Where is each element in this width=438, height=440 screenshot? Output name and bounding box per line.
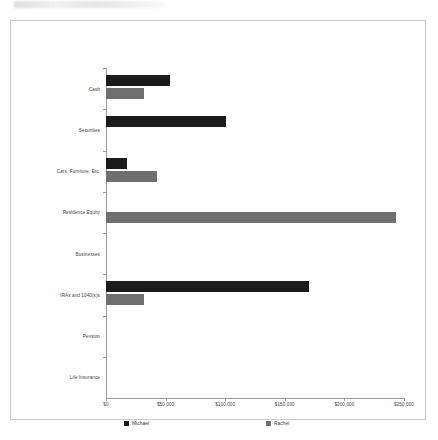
category-row: Residence Equity [106,192,404,233]
category-label: Pension [83,334,100,339]
x-axis-line [106,398,405,399]
y-axis-tick [103,109,106,110]
legend-label: Rachel [274,421,290,426]
category-label: Cash [89,86,100,91]
category-label: IRAs and 1040(k)s [60,292,100,297]
scanned-page: CashSecuritiesCars, Furniture, Etc.Resid… [0,0,438,440]
x-axis-tick-label: $100,000 [215,402,235,407]
category-label: Cars, Furniture, Etc. [57,169,100,174]
x-axis-tick [106,398,107,401]
bar-rachel-cash [106,88,144,99]
legend-entry-michael[interactable]: Michael [124,421,149,426]
bar-rachel-residence-equity [106,212,396,223]
x-axis-tick-label: $250,000 [394,402,414,407]
y-axis-tick [103,316,106,317]
x-axis-tick [225,398,226,401]
category-label: Securities [79,127,100,132]
x-axis-tick [344,398,345,401]
y-axis-tick [103,357,106,358]
category-label: Businesses [76,251,101,256]
x-axis-tick [285,398,286,401]
y-axis-tick [103,68,106,69]
bar-michael-cash [106,75,170,86]
bar-michael-securities [106,116,226,127]
scan-artifact [14,1,164,8]
plot-area: CashSecuritiesCars, Furniture, Etc.Resid… [106,68,404,398]
legend-swatch-icon [124,421,129,426]
bar-rachel-cars-furniture-etc [106,171,157,182]
bar-michael-iras-and-1040-k-s [106,281,309,292]
category-row: Cars, Furniture, Etc. [106,151,404,192]
x-axis-tick-label: $50,000 [157,402,174,407]
category-row: Businesses [106,233,404,274]
category-row: Cash [106,68,404,109]
y-axis-tick [103,233,106,234]
bar-michael-cars-furniture-etc [106,158,127,169]
category-row: Life Insurance [106,357,404,398]
y-axis-tick [103,192,106,193]
legend-swatch-icon [266,421,271,426]
category-row: Securities [106,109,404,150]
category-row: Pension [106,316,404,357]
category-label: Residence Equity [63,210,100,215]
x-axis-tick [404,398,405,401]
legend-label: Michael [132,421,149,426]
y-axis-tick [103,274,106,275]
chart-legend: MichaelRachel [106,421,406,435]
legend-entry-rachel[interactable]: Rachel [266,421,290,426]
y-axis-tick [103,151,106,152]
category-row: IRAs and 1040(k)s [106,274,404,315]
category-label: Life Insurance [70,375,100,380]
x-axis-tick-label: $200,000 [334,402,354,407]
chart-frame: CashSecuritiesCars, Furniture, Etc.Resid… [10,20,426,420]
x-axis-tick [166,398,167,401]
x-axis-tick-label: $0 [103,402,108,407]
x-axis-tick-label: $150,000 [275,402,295,407]
bar-rachel-iras-and-1040-k-s [106,294,144,305]
